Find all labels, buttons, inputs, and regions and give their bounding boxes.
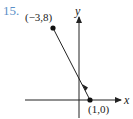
point-neg3-8 [50,25,55,30]
point-1-0 [87,97,92,102]
coordinate-diagram: x y (−3,8) (1,0) [0,0,133,119]
x-axis-label: x [123,93,130,107]
line-segment [53,28,90,100]
direction-arrow-icon [82,84,88,91]
point-label-1-0: (1,0) [88,103,109,116]
y-axis-label: y [74,4,81,18]
point-label-neg3-8: (−3,8) [25,11,53,24]
